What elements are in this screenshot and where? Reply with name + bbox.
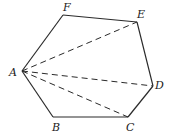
hexagon-diagram: A B C D E F: [0, 0, 174, 139]
edge-ef: [63, 15, 137, 22]
label-b: B: [51, 121, 60, 134]
diagonal-ad: [22, 71, 153, 86]
label-d: D: [154, 79, 164, 92]
label-a: A: [8, 66, 17, 79]
edge-de: [137, 22, 153, 86]
label-f: F: [62, 1, 71, 14]
label-e: E: [136, 8, 145, 21]
label-c: C: [126, 121, 135, 134]
hexagon-edges: [22, 15, 153, 117]
diagonals: [22, 22, 153, 117]
edge-ab: [22, 71, 53, 117]
edge-cd: [128, 86, 153, 117]
